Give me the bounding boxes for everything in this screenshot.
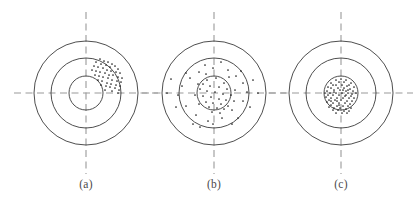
shot-dot xyxy=(330,97,332,99)
panel-label-b: (b) xyxy=(194,178,234,190)
shot-dot xyxy=(91,69,93,71)
panel-label-c: (c) xyxy=(321,178,361,190)
shot-dot xyxy=(117,92,119,94)
shot-dot xyxy=(111,79,113,81)
shot-dot xyxy=(242,82,244,84)
shot-dot xyxy=(340,99,342,101)
shot-dot xyxy=(352,90,354,92)
shot-dot xyxy=(336,105,338,107)
shot-dot xyxy=(99,71,101,73)
shot-dot xyxy=(335,79,337,81)
shot-dot xyxy=(257,92,259,94)
shot-dot xyxy=(220,61,222,63)
shot-dot xyxy=(341,84,343,86)
target-panel-b xyxy=(142,12,286,174)
shot-dot xyxy=(112,74,114,76)
target-panel-a xyxy=(14,12,158,174)
shot-dot xyxy=(204,64,206,66)
shot-dot xyxy=(198,103,200,105)
panels-group xyxy=(14,12,413,174)
shot-dot xyxy=(348,84,350,86)
shot-dot xyxy=(111,63,113,65)
shot-dot xyxy=(215,77,217,79)
shot-dot xyxy=(342,97,344,99)
shot-dot xyxy=(103,60,105,62)
shot-dot xyxy=(99,58,101,60)
shot-dot xyxy=(343,110,345,112)
shot-dot xyxy=(93,65,95,67)
shot-dot xyxy=(246,91,248,93)
shot-dot xyxy=(166,92,168,94)
shot-dot xyxy=(336,97,338,99)
shot-dot xyxy=(342,89,344,91)
shot-dot xyxy=(210,96,212,98)
shot-dot xyxy=(328,99,330,101)
shot-dot xyxy=(346,85,348,87)
shot-dot xyxy=(353,97,355,99)
shot-dot xyxy=(102,76,104,78)
shot-dot xyxy=(335,112,337,114)
shot-dot xyxy=(330,82,332,84)
shot-dot xyxy=(175,106,177,108)
panel-label-a: (a) xyxy=(66,178,106,190)
shot-dot xyxy=(350,107,352,109)
shot-dot xyxy=(109,66,111,68)
shot-dot xyxy=(214,91,216,93)
shot-dot xyxy=(98,75,100,77)
shot-dot xyxy=(202,95,204,97)
shot-dot xyxy=(105,64,107,66)
shot-dot xyxy=(332,109,334,111)
shot-dot xyxy=(115,71,117,73)
shot-dot xyxy=(351,93,353,95)
shot-dot xyxy=(230,94,232,96)
shot-dot xyxy=(349,88,351,90)
shot-dot xyxy=(333,107,335,109)
shot-dot xyxy=(117,68,119,70)
shot-dot xyxy=(351,100,353,102)
shot-dot xyxy=(109,86,111,88)
shot-dot xyxy=(345,79,347,81)
shot-dot xyxy=(218,98,220,100)
shot-dot xyxy=(194,94,196,96)
shot-dot xyxy=(209,85,211,87)
shot-dot xyxy=(223,82,225,84)
shot-dot xyxy=(350,82,352,84)
shot-dot xyxy=(346,112,348,114)
shot-dot xyxy=(120,81,122,83)
shot-dot xyxy=(106,69,108,71)
shot-group-b xyxy=(166,61,259,128)
shot-dot xyxy=(347,92,349,94)
shot-dot xyxy=(94,74,96,76)
shot-dot xyxy=(114,87,116,89)
shot-dot xyxy=(105,85,107,87)
shot-dot xyxy=(106,82,108,84)
shot-dot xyxy=(192,123,194,125)
shot-dot xyxy=(340,78,342,80)
shot-dot xyxy=(227,69,229,71)
shot-dot xyxy=(202,83,204,85)
shot-dot xyxy=(338,104,340,106)
shot-dot xyxy=(332,94,334,96)
shot-dot xyxy=(339,107,341,109)
shot-dot xyxy=(110,83,112,85)
shot-dot xyxy=(119,72,121,74)
shot-dot xyxy=(233,100,235,102)
shot-dot xyxy=(100,84,102,86)
shot-dot xyxy=(212,102,214,104)
shot-dot xyxy=(185,72,187,74)
shot-dot xyxy=(335,92,337,94)
shot-dot xyxy=(104,72,106,74)
target-panel-c xyxy=(269,12,413,174)
shot-dot xyxy=(208,106,210,108)
shot-dot xyxy=(235,75,237,77)
shot-dot xyxy=(334,99,336,101)
shot-dot xyxy=(349,103,351,105)
shot-dot xyxy=(242,100,244,102)
shot-dot xyxy=(116,80,118,82)
shot-dot xyxy=(195,114,197,116)
shot-dot xyxy=(206,79,208,81)
shot-dot xyxy=(330,87,332,89)
shot-dot xyxy=(212,67,214,69)
shot-dot xyxy=(95,61,97,63)
shot-dot xyxy=(100,63,102,65)
